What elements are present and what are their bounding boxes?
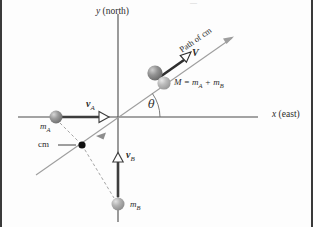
mass-b-sphere (112, 198, 125, 211)
mass-a-sphere (50, 111, 63, 124)
theta-angle-label: θ (148, 99, 155, 110)
path-arrowhead-lower (96, 133, 106, 140)
center-of-mass-label: cm (38, 140, 49, 149)
velocity-combined-symbol: V (192, 47, 199, 58)
mass-equation-m: M (174, 77, 182, 87)
velocity-b-label: vB (126, 150, 135, 163)
diagram-canvas (0, 0, 313, 227)
mass-equation-m2-sub: B (220, 82, 224, 89)
velocity-b-vector (113, 153, 123, 198)
velocity-a-sub: A (90, 104, 94, 112)
mass-equation-eq: = (182, 77, 193, 87)
mass-a-sub: A (47, 126, 51, 133)
mass-a-label: mA (40, 122, 50, 133)
mass-b-label: mB (130, 200, 140, 211)
combined-mass-equation: M = mA + mB (174, 78, 224, 89)
dashed-mass-connector (60, 123, 114, 198)
velocity-combined-label: V (192, 48, 199, 58)
velocity-b-sub: B (130, 155, 134, 163)
path-of-cm-line (36, 37, 234, 176)
x-axis-label: x (east) (272, 110, 300, 120)
y-axis-label-text: (north) (100, 6, 129, 16)
x-axis-label-text: (east) (276, 109, 299, 119)
top-edge-artifact: — (190, 0, 197, 7)
velocity-a-label: vA (86, 99, 95, 112)
y-axis-label: y (north) (96, 7, 129, 17)
velocity-a-vector (62, 112, 109, 123)
physics-diagram-figure: y (north) x (east) Path of cm V M = mA +… (0, 0, 313, 227)
mass-equation-plus: + (203, 77, 214, 87)
mass-b-sub: B (137, 204, 141, 211)
combined-mass-sphere-lower (157, 76, 170, 89)
center-of-mass-dot (78, 141, 85, 148)
